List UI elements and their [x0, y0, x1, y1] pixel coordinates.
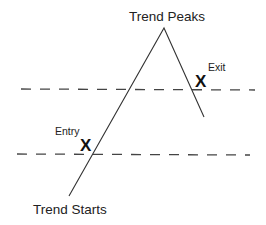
trend-starts-label: Trend Starts: [33, 203, 107, 217]
entry-marker-x-icon: X: [80, 137, 91, 154]
lower-dashed-level-line: [17, 154, 250, 155]
entry-label: Entry: [55, 126, 80, 137]
exit-marker-x-icon: X: [195, 73, 206, 90]
trend-line: [69, 28, 204, 196]
exit-label: Exit: [208, 62, 226, 73]
trend-peaks-label: Trend Peaks: [129, 10, 205, 24]
upper-dashed-level-line: [21, 89, 255, 90]
diagram-svg: [0, 0, 266, 225]
